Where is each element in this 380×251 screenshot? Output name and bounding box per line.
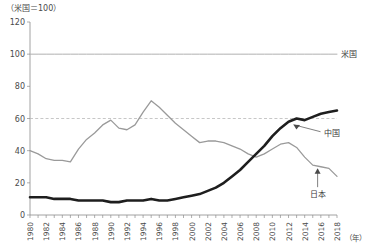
y-tick-label: 100 bbox=[10, 50, 25, 59]
x-tick-label: 2014 bbox=[301, 222, 310, 241]
x-tick-label: 2004 bbox=[220, 222, 229, 241]
x-tick-label: 2012 bbox=[285, 222, 294, 241]
x-tick-label: 1996 bbox=[155, 222, 164, 241]
x-tick-label: 2010 bbox=[268, 222, 277, 241]
china-annotation-arrowhead bbox=[294, 125, 301, 130]
us-series-label: 米国 bbox=[341, 49, 357, 59]
x-tick-label: 1980 bbox=[26, 222, 35, 241]
x-tick-label: 2016 bbox=[317, 222, 326, 241]
x-tick-label: 1992 bbox=[123, 222, 132, 241]
y-tick-label: 60 bbox=[15, 115, 25, 124]
x-tick-label: 2008 bbox=[252, 222, 261, 241]
y-tick-label: 20 bbox=[15, 179, 25, 188]
x-tick-label: 1986 bbox=[74, 222, 83, 241]
x-tick-label: 2000 bbox=[188, 222, 197, 241]
japan-series-label: 日本 bbox=[310, 189, 326, 199]
x-axis-unit-label: （年） bbox=[345, 233, 366, 243]
series-line-日本 bbox=[30, 101, 337, 177]
x-tick-label: 2018 bbox=[333, 222, 342, 241]
y-tick-label: 120 bbox=[10, 18, 25, 27]
japan-annotation-arrowhead bbox=[315, 168, 321, 174]
x-tick-label: 1998 bbox=[171, 222, 180, 241]
x-tick-label: 1982 bbox=[42, 222, 51, 241]
x-tick-label: 2002 bbox=[204, 222, 213, 241]
x-tick-label: 1984 bbox=[58, 222, 67, 241]
china-series-label: 中国 bbox=[324, 128, 340, 138]
x-tick-label: 1988 bbox=[91, 222, 100, 241]
line-chart: （米国＝100） 0204060801001201980198219841986… bbox=[0, 0, 380, 251]
series-line-中国 bbox=[30, 110, 337, 202]
x-tick-label: 1990 bbox=[107, 222, 116, 241]
y-tick-label: 40 bbox=[15, 147, 25, 156]
y-tick-label: 0 bbox=[20, 211, 25, 220]
x-tick-label: 1994 bbox=[139, 222, 148, 241]
y-tick-label: 80 bbox=[15, 82, 25, 91]
chart-plot-area: 0204060801001201980198219841986198819901… bbox=[0, 0, 380, 251]
x-tick-label: 2006 bbox=[236, 222, 245, 241]
